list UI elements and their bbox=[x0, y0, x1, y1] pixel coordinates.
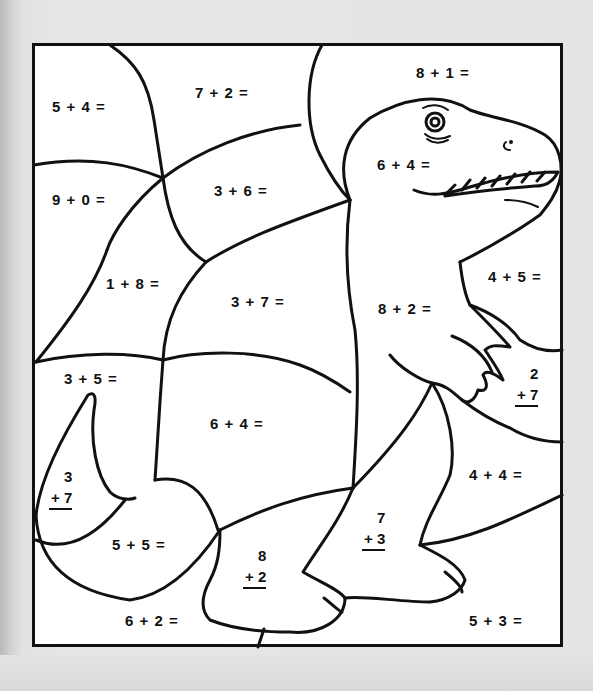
eye-wrinkle bbox=[423, 105, 448, 110]
problem-4-plus-4: 4 + 4 = bbox=[469, 466, 523, 483]
addend-top: 7 bbox=[362, 507, 385, 528]
problem-5-plus-4: 5 + 4 = bbox=[52, 98, 106, 115]
addend-bottom: + 3 bbox=[362, 528, 385, 551]
region-line bbox=[107, 178, 163, 250]
problem-4-plus-5: 4 + 5 = bbox=[488, 268, 542, 285]
problem-8-plus-2: 8 + 2 = bbox=[378, 300, 432, 317]
dino-head-outline bbox=[344, 99, 561, 200]
addend-bottom: + 2 bbox=[243, 566, 266, 589]
dino-nostril-icon bbox=[504, 142, 510, 150]
region-line bbox=[36, 515, 220, 600]
region-line bbox=[163, 262, 206, 360]
problem-3-plus-7: 3 + 7 = bbox=[231, 293, 285, 310]
problem-3-plus-7-vertical: 3 + 7 bbox=[49, 466, 72, 510]
region-line bbox=[155, 479, 218, 530]
region-line bbox=[110, 45, 163, 178]
addend-top: 2 bbox=[515, 363, 538, 384]
region-line bbox=[36, 250, 107, 362]
problem-1-plus-8: 1 + 8 = bbox=[106, 275, 160, 292]
region-line bbox=[163, 178, 206, 262]
dino-arm-outline bbox=[462, 305, 510, 402]
problem-6-plus-4-head: 6 + 4 = bbox=[377, 156, 431, 173]
eye-wrinkle bbox=[425, 134, 450, 139]
region-line bbox=[163, 125, 300, 178]
region-line bbox=[155, 360, 163, 480]
region-line bbox=[206, 200, 350, 262]
addend-bottom: + 7 bbox=[49, 487, 72, 510]
region-line bbox=[420, 495, 562, 545]
problem-7-plus-3-vertical: 7 + 3 bbox=[362, 507, 385, 551]
problem-5-plus-3: 5 + 3 = bbox=[469, 612, 523, 629]
problem-3-plus-5: 3 + 5 = bbox=[64, 370, 118, 387]
addend-top: 8 bbox=[243, 545, 266, 566]
region-line bbox=[34, 161, 163, 178]
problem-3-plus-6: 3 + 6 = bbox=[214, 182, 268, 199]
problem-8-plus-1: 8 + 1 = bbox=[416, 64, 470, 81]
dino-eye-icon bbox=[426, 113, 444, 131]
problem-8-plus-2-vertical: 8 + 2 bbox=[243, 545, 266, 589]
addend-bottom: + 7 bbox=[515, 384, 538, 407]
dino-back-outline bbox=[347, 200, 358, 488]
problem-7-plus-2: 7 + 2 = bbox=[195, 84, 249, 101]
region-line bbox=[353, 383, 432, 488]
addend-top: 3 bbox=[49, 466, 72, 487]
problem-9-plus-0: 9 + 0 = bbox=[52, 191, 106, 208]
dino-leg-outline bbox=[303, 488, 353, 598]
dino-toe-line bbox=[324, 598, 342, 612]
dino-chin-line bbox=[505, 200, 538, 207]
dino-leg-outline bbox=[420, 383, 452, 545]
dino-pupil-icon bbox=[431, 118, 439, 126]
problem-5-plus-5: 5 + 5 = bbox=[112, 536, 166, 553]
problem-6-plus-4-body: 6 + 4 = bbox=[210, 415, 264, 432]
problem-6-plus-2: 6 + 2 = bbox=[125, 612, 179, 629]
dino-mouth-outline bbox=[414, 172, 558, 196]
dino-rear-foot bbox=[203, 530, 345, 632]
problem-2-plus-7-vertical: 2 + 7 bbox=[515, 363, 538, 407]
